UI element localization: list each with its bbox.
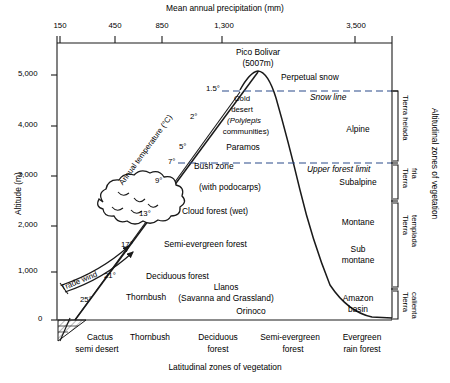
zone-cold-desert-line4: communities) [223,128,269,136]
zone-cloud-forest: Cloud forest (wet) [182,207,248,216]
alt-zone-sub-line2: montane [342,256,375,265]
bottom-zone-cactus-line2: semi desert [75,345,118,354]
left-tick-label-5000: 5,000 [18,70,38,78]
top-tick-label-450: 450 [108,22,121,30]
tierra-fria-label-line1: Tierra [401,168,409,194]
bottom-zone-thornbush: Thornbush [130,333,170,342]
bottom-zone-evergreen-line1: Evergreen [343,333,382,342]
zone-semi-evergreen: Semi-evergreen forest [164,240,247,249]
temp-label-7: 7° [168,158,175,166]
temp-label-9: 9° [155,177,162,185]
tierra-templada-label-line1: Tierra [401,215,409,243]
left-axis-title: Altitude (m) [14,172,23,215]
peak-name-label: Pico Bolivar [236,48,280,57]
zone-podocarps: (with podocarps) [199,183,261,192]
tierra-fria-label-line2: fria [410,168,418,186]
zone-perpetual-snow: Perpetual snow [281,73,339,82]
temp-label-2: 2° [190,113,197,121]
tierra-templada-label-line2: templada [410,215,418,260]
zone-bush: Bush zone [194,162,234,171]
top-axis-title: Mean annual precipitation (mm) [166,4,284,13]
top-tick-label-850: 850 [155,22,168,30]
temp-label-5: 5° [179,143,186,151]
right-axis-title: Altitudinal zones of vegetation [430,108,439,308]
zone-cold-desert-line1: Cold [234,95,250,103]
bottom-zone-semi-evergreen-line1: Semi-evergreen [260,333,320,342]
tierra-calienta-label-line1: Tierra [401,292,409,318]
left-tick-label-4000: 4,000 [18,121,38,129]
top-tick-label-150: 150 [53,22,66,30]
zone-cold-desert-line3: (Polylepis [227,117,261,125]
bottom-axis-title: Latitudinal zones of vegetation [168,363,281,372]
temp-label-25: 25° [80,296,92,304]
alt-zone-amazon-line1: Amazon [343,294,374,303]
snow-line-label: Snow line [310,93,346,102]
tierra-brackets [393,91,398,319]
alt-zone-sub-line1: Sub [351,245,366,254]
left-tick-label-0: 0 [38,315,42,323]
tierra-calienta-label-line2: calienta [410,292,418,330]
zone-cold-desert-line2: desert [231,106,253,114]
coastline-hatch [58,318,86,341]
tierra-helada-label: Tierra helada [401,95,409,157]
altitudinal-zones-diagram: Mean annual precipitation (mm) 150 450 8… [0,0,450,383]
bottom-zone-deciduous-line1: Deciduous [198,333,238,342]
bottom-zone-evergreen-line2: rain forest [343,345,380,354]
alt-zone-subalpine: Subalpine [339,178,376,187]
alt-zone-amazon-line2: basin [348,305,368,314]
alt-zone-alpine: Alpine [346,125,369,134]
top-tick-label-3500: 3,500 [346,22,366,30]
llanos-label-line2: (Savanna and Grassland) [178,294,273,303]
alt-zone-montane: Montane [342,218,375,227]
bottom-zone-semi-evergreen-line2: forest [283,345,304,354]
peak-elevation-label: (5007m) [242,59,273,68]
temp-label-13: 13° [139,210,151,218]
bottom-zone-cactus-line1: Cactus [87,333,113,342]
left-tick-label-1000: 1,000 [18,267,38,275]
top-tick-label-1300: 1,300 [214,22,234,30]
temp-label-21: 21° [104,272,116,280]
zone-paramos: Paramos [226,143,260,152]
left-axis-ticks [51,75,57,320]
zone-thornbush: Thornbush [126,293,166,302]
orinoco-label: Orinoco [236,307,265,316]
llanos-label-line1: Llanos [214,283,239,292]
temp-label-17: 17° [121,241,133,249]
upper-forest-limit-label: Upper forest limit [307,165,370,174]
temp-label-1-5: 1.5° [206,85,220,93]
bottom-zone-deciduous-line2: forest [208,345,229,354]
left-tick-label-2000: 2,000 [18,221,38,229]
zone-deciduous: Deciduous forest [146,272,209,281]
top-axis-ticks [57,36,392,43]
